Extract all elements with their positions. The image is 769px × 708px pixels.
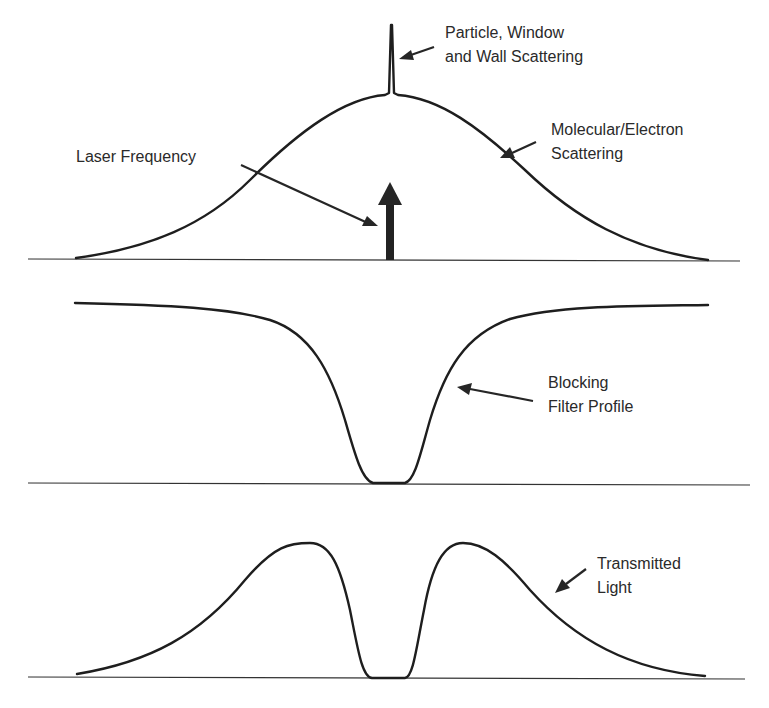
transmitted-pointer — [566, 569, 586, 584]
laser-frequency-label: Laser Frequency — [76, 145, 196, 169]
transmitted-label-line-1: Transmitted — [597, 552, 681, 576]
filter-label-line-1: Blocking — [548, 371, 633, 395]
spike-label: Particle, Window and Wall Scattering — [445, 21, 583, 69]
transmitted-light-label: Transmitted Light — [597, 552, 681, 600]
spike-label-line-1: Particle, Window — [445, 21, 583, 45]
filter-pointer — [470, 389, 533, 401]
spike-label-line-2: and Wall Scattering — [445, 45, 583, 69]
transmitted-pointer-head — [555, 579, 570, 593]
molecular-pointer — [512, 142, 536, 153]
baseline-1 — [28, 259, 740, 261]
laser-frequency-arrow-shaft — [386, 202, 394, 260]
panel-blocking-filter — [28, 303, 750, 485]
laser-frequency-arrow-head — [378, 182, 402, 205]
molecular-label-line-1: Molecular/Electron — [551, 118, 684, 142]
filter-label-line-2: Filter Profile — [548, 395, 633, 419]
transmitted-label-line-2: Light — [597, 576, 681, 600]
molecular-scattering-label: Molecular/Electron Scattering — [551, 118, 684, 166]
filter-pointer-head — [457, 383, 472, 395]
spike-pointer-head — [399, 50, 414, 60]
laser-frequency-pointer — [241, 165, 370, 224]
notch-filter-diagram: Particle, Window and Wall Scattering Mol… — [0, 0, 769, 708]
blocking-filter-label: Blocking Filter Profile — [548, 371, 633, 419]
diagram-canvas — [0, 0, 769, 708]
molecular-label-line-2: Scattering — [551, 142, 684, 166]
laser-frequency-label-text: Laser Frequency — [76, 145, 196, 169]
